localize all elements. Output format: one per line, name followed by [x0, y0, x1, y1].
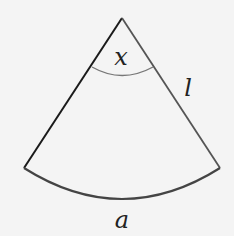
sector-diagram: x l a [0, 0, 234, 236]
outer-arc [24, 168, 220, 199]
right-radius-line [122, 18, 220, 168]
arc-label: a [115, 206, 129, 234]
angle-label: x [114, 43, 128, 71]
left-radius-line [24, 18, 122, 168]
sector-figure: x l a [0, 0, 234, 236]
radius-label: l [184, 74, 192, 102]
